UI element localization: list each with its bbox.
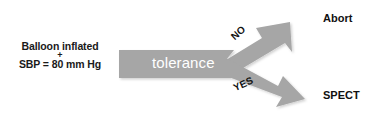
process-label-tolerance: tolerance <box>152 54 215 71</box>
outcome-label-abort: Abort <box>323 12 352 24</box>
branch-label-yes: YES <box>232 75 255 93</box>
input-condition-line-2: SBP = 80 mm Hg <box>4 59 116 70</box>
input-condition-block: Balloon inflated + SBP = 80 mm Hg <box>4 41 116 70</box>
flowchart-diagram: Balloon inflated + SBP = 80 mm Hg tolera… <box>0 0 370 118</box>
outcome-label-spect: SPECT <box>323 89 360 101</box>
diagram-text-layer: Balloon inflated + SBP = 80 mm Hg tolera… <box>0 0 370 118</box>
branch-label-no: NO <box>229 24 248 42</box>
